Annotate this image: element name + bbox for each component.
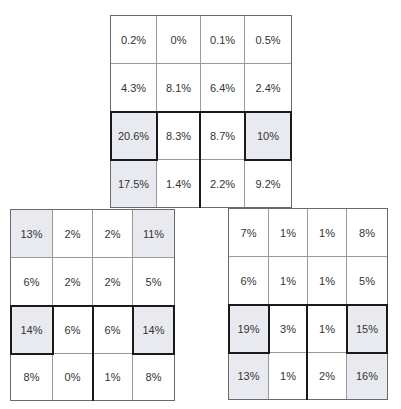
cell: 2% [308, 353, 347, 399]
cell-highlighted: 10% [245, 112, 291, 160]
cell: 1% [269, 353, 308, 399]
cell: 3% [269, 305, 308, 353]
cell: 6% [93, 306, 133, 354]
cell: 16% [347, 353, 387, 399]
cell: 6% [11, 258, 53, 306]
cell: 1% [269, 209, 308, 257]
cell: 1% [308, 257, 347, 305]
cell: 9.2% [245, 160, 291, 207]
cell: 0.5% [245, 16, 291, 64]
cell: 2.4% [245, 64, 291, 112]
cell: 0% [53, 354, 93, 400]
cell: 1% [269, 257, 308, 305]
cell: 8% [347, 209, 387, 257]
cell: 13% [229, 353, 269, 399]
cell: 2% [53, 210, 93, 258]
cell: 2.2% [201, 160, 245, 207]
cell: 4.3% [111, 64, 157, 112]
cell: 5% [133, 258, 174, 306]
cell: 5% [347, 257, 387, 305]
cell: 2% [53, 258, 93, 306]
cell: 6% [229, 257, 269, 305]
cell: 6.4% [201, 64, 245, 112]
cell: 1% [93, 354, 133, 400]
divider [268, 304, 348, 306]
cell-highlighted: 15% [347, 305, 387, 353]
cell: 17.5% [111, 160, 157, 207]
cell: 1% [308, 209, 347, 257]
cell: 0% [157, 16, 201, 64]
cell: 2% [93, 210, 133, 258]
cell-highlighted: 19% [229, 305, 269, 353]
cell: 2% [93, 258, 133, 306]
cell: 0.2% [111, 16, 157, 64]
cell: 11% [133, 210, 174, 258]
cell: 8.3% [157, 112, 201, 160]
cell: 0.1% [201, 16, 245, 64]
cell-highlighted: 20.6% [111, 112, 157, 160]
cell: 8% [11, 354, 53, 400]
divider [92, 305, 94, 401]
cell-highlighted: 14% [11, 306, 53, 354]
divider [199, 111, 201, 208]
cell: 6% [53, 306, 93, 354]
divider [306, 304, 308, 400]
cell: 8% [133, 354, 174, 400]
cell: 8.7% [201, 112, 245, 160]
cell: 7% [229, 209, 269, 257]
cell: 13% [11, 210, 53, 258]
cell: 8.1% [157, 64, 201, 112]
cell: 1% [308, 305, 347, 353]
cell-highlighted: 14% [133, 306, 174, 354]
cell: 1.4% [157, 160, 201, 207]
